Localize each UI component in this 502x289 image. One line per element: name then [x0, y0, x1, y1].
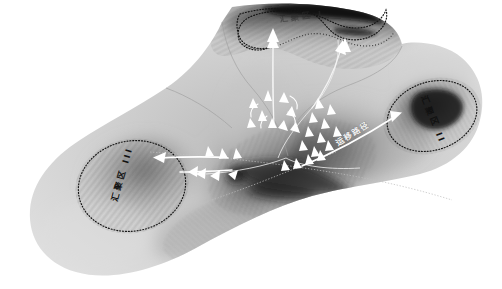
structure-map-svg: 汇聚区 I 汇聚区 II 汇聚区 III 运移路径 — [0, 0, 502, 289]
figure-canvas: 汇聚区 I 汇聚区 II 汇聚区 III 运移路径 — [0, 0, 502, 289]
